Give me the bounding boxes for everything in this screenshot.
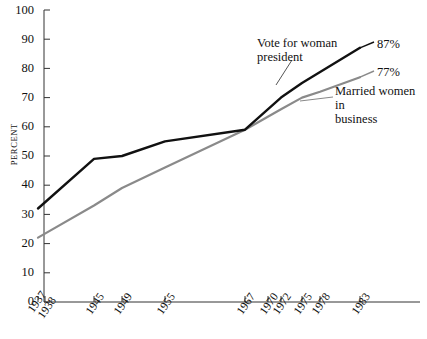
endpoint-leader-black <box>360 42 374 48</box>
series-annotation-vote-for-woman-president: Vote for woman president <box>257 36 337 64</box>
y-tick-label-60: 60 <box>4 120 34 133</box>
y-tick-label-30: 30 <box>4 208 34 221</box>
y-axis-ticks <box>44 10 50 302</box>
y-tick-label-40: 40 <box>4 178 34 191</box>
series-line-vote-for-woman-president <box>38 48 360 209</box>
series-line-married-women-in-business <box>38 77 360 237</box>
y-tick-label-10: 10 <box>4 266 34 279</box>
endpoint-leader-gray <box>360 71 374 77</box>
y-tick-label-100: 100 <box>4 4 34 17</box>
y-tick-label-90: 90 <box>4 33 34 46</box>
y-tick-label-50: 50 <box>4 149 34 162</box>
y-tick-label-80: 80 <box>4 62 34 75</box>
y-tick-label-70: 70 <box>4 91 34 104</box>
endpoint-value-black-87: 87% <box>377 38 400 51</box>
chart-canvas <box>0 0 427 339</box>
series-annotation-married-women-in-business: Married women in business <box>335 84 427 126</box>
y-tick-label-20: 20 <box>4 237 34 250</box>
endpoint-value-gray-77: 77% <box>377 66 400 79</box>
chart-container: PERCENT 100 90 80 70 60 50 40 30 20 10 0… <box>0 0 427 339</box>
